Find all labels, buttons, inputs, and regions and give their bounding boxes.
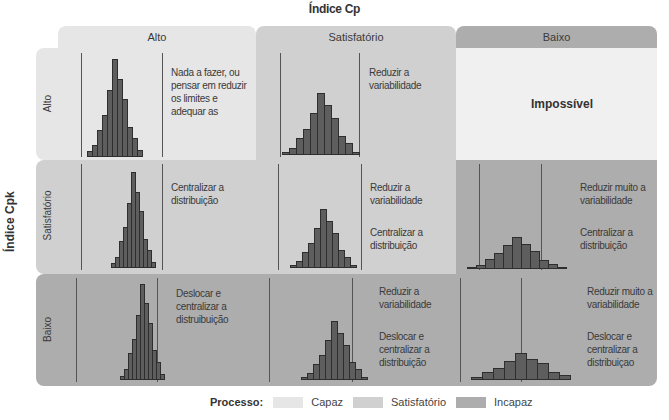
cell-text-r2c1-b: Deslocar e centralizar a distribuição <box>379 330 451 369</box>
legend-label-incapaz: Incapaz <box>494 396 533 408</box>
region-satisfatorio-row <box>36 160 456 274</box>
spec-limit-upper <box>162 53 163 157</box>
spec-limit-upper <box>359 53 360 157</box>
histogram-very-wide-shifted <box>471 352 570 380</box>
histogram-narrow-shifted <box>120 282 164 380</box>
histogram-narrow-offcenter <box>111 166 155 268</box>
spec-limit-lower <box>269 278 270 382</box>
column-header-satisfatorio: Satisfatório <box>256 26 456 48</box>
spec-limit-lower <box>81 53 82 157</box>
cell-text-r2c0: Deslocar e centralizar a distruibuição <box>176 287 246 326</box>
spec-limit-lower <box>280 53 281 157</box>
column-header-baixo: Baixo <box>456 26 657 48</box>
x-axis-title: Índice Cp <box>0 2 669 16</box>
cell-text-r2c2-a: Reduzir muito a variabilidade <box>587 285 659 311</box>
y-axis-title: Índice Cpk <box>3 192 17 252</box>
legend-swatch-incapaz <box>456 397 486 408</box>
impossible-label: Impossível <box>531 97 593 111</box>
column-header-alto: Alto <box>58 26 256 48</box>
row-label-satisfatorio: Satisfatório <box>42 176 53 256</box>
cell-text-r2c2-b: Deslocar e centralizar a distribuiçao <box>587 330 659 369</box>
histogram-wide-centered <box>282 80 359 155</box>
spec-limit-lower <box>278 164 279 270</box>
legend-swatch-capaz <box>273 397 303 408</box>
cell-text-r1c1-b: Centralizar a distribuição <box>370 226 440 252</box>
legend-label-capaz: Capaz <box>311 396 343 408</box>
spec-limit-upper <box>361 164 362 270</box>
spec-limit-lower <box>76 278 77 382</box>
legend-swatch-satisfatorio <box>353 397 383 408</box>
cell-text-r0c1: Reduzir a variabilidade <box>369 66 439 92</box>
spec-limit-lower <box>460 278 461 382</box>
legend: Processo: Capaz Satisfatório Incapaz <box>210 396 543 408</box>
histogram-narrow-centered <box>87 55 142 157</box>
cell-text-r0c0: Nada a fazer, ou pensar em reduzir os li… <box>171 66 251 118</box>
legend-title: Processo: <box>210 396 263 408</box>
cell-text-r1c1-a: Reduzir a variabilidade <box>370 181 440 207</box>
row-label-alto: Alto <box>42 64 53 144</box>
histogram-wide-offcenter <box>290 205 356 268</box>
histogram-very-wide <box>467 239 566 269</box>
row-label-baixo: Baixo <box>42 290 53 370</box>
legend-label-satisfatorio: Satisfatório <box>391 396 446 408</box>
spec-limit-lower <box>81 164 82 270</box>
cell-text-r2c1-a: Reduzir a variabilidade <box>379 285 451 311</box>
cell-text-r1c2-b: Centralizar a distribuição <box>580 226 652 252</box>
histogram-wide-shifted <box>301 319 367 380</box>
spec-limit-upper <box>162 164 163 270</box>
cell-text-r1c0: Centralizar a distribuição <box>171 181 251 207</box>
cell-text-r1c2-a: Reduzir muito a variabilidade <box>580 181 652 207</box>
